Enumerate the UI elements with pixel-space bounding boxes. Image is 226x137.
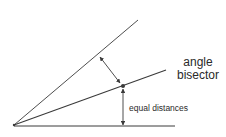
equal-distances-label: equal distances xyxy=(129,103,188,113)
distance-arrow-upper xyxy=(100,57,120,83)
point-on-bisector xyxy=(121,84,125,88)
angle-bisector-ray xyxy=(14,70,166,125)
vertex-point xyxy=(13,124,15,126)
upper-ray xyxy=(14,20,138,125)
angle-bisector-label: angle bisector xyxy=(170,56,226,82)
angle-bisector-label-line2: bisector xyxy=(170,69,226,82)
